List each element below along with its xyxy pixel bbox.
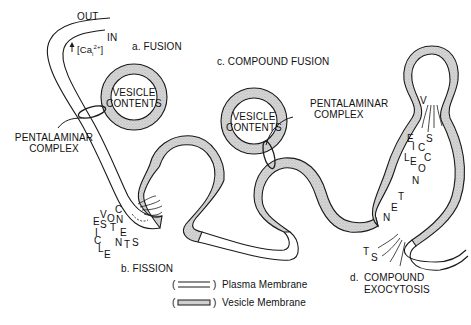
label-out: OUT xyxy=(77,11,98,22)
label-in: IN xyxy=(107,32,117,43)
legend-swatches xyxy=(178,282,210,305)
label-vesicle-contents-2: VESICLE CONTENTS xyxy=(224,111,284,133)
plasma-membrane-bottom xyxy=(198,232,298,260)
label-pentalaminar-complex-2: PENTALAMINAR COMPLEX xyxy=(310,98,388,120)
label-vesicle-contents-1: VESICLE CONTENTS xyxy=(104,87,164,109)
label-pentalaminar-complex-1: PENTALAMINAR COMPLEX xyxy=(14,132,94,154)
label-fusion: a. FUSION xyxy=(132,41,182,52)
calcium-arrow-icon xyxy=(70,42,75,52)
compound-exocytosis-membrane xyxy=(372,46,468,270)
label-compound-fusion: c. COMPOUND FUSION xyxy=(217,56,329,67)
fission-lobe xyxy=(138,136,224,242)
label-fission: b. FISSION xyxy=(121,263,173,274)
label-compound-exocytosis: d. COMPOUND EXOCYTOSIS xyxy=(350,272,359,283)
label-calcium: [Cai2+] xyxy=(77,42,103,60)
